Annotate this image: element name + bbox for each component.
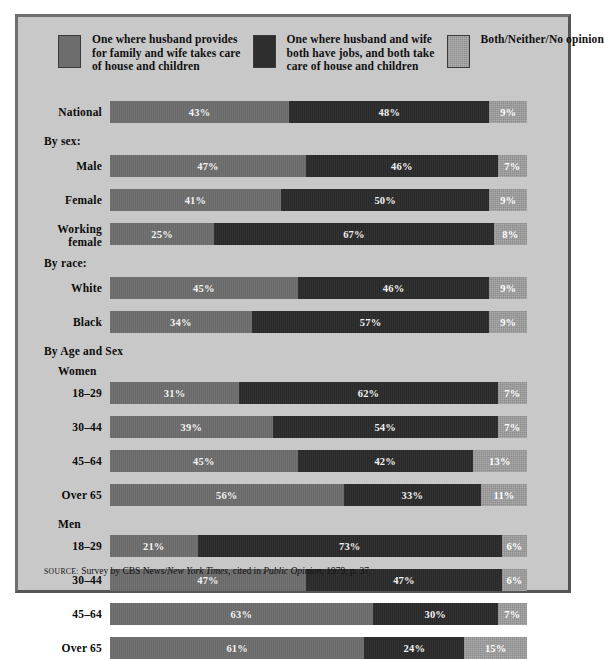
stacked-bar: 56%33%11% <box>110 484 527 506</box>
row-label: Male <box>76 160 102 173</box>
row-label-line: National <box>58 106 102 119</box>
row-label-line: 45–64 <box>72 608 102 621</box>
bar-segment-value: 33% <box>402 490 424 501</box>
row-label-line: Over 65 <box>62 489 102 502</box>
legend-label-line: Both/Neither/No opinion <box>481 33 604 47</box>
stacked-bar: 21%73%6% <box>110 535 527 557</box>
bar-segment: 7% <box>498 382 527 404</box>
bar-segment: 41% <box>110 189 281 211</box>
bar-segment-value: 48% <box>379 107 401 118</box>
legend-label-line: One where husband and wife <box>287 33 435 47</box>
swatch-dark-gray-icon <box>58 35 81 68</box>
bar-segment: 42% <box>298 450 473 472</box>
bar-segment: 48% <box>289 101 489 123</box>
bar-segment: 25% <box>110 223 214 245</box>
legend-item: One where husband and wifeboth have jobs… <box>253 33 435 74</box>
bar-segment-value: 50% <box>374 195 396 206</box>
bar-segment: 39% <box>110 416 273 438</box>
bar-segment: 7% <box>498 416 527 438</box>
stacked-bar: 31%62%7% <box>110 382 527 404</box>
bar-segment-value: 7% <box>504 161 520 172</box>
bar-segment-value: 24% <box>404 643 426 654</box>
group-label: By sex: <box>44 135 81 147</box>
bar-segment: 61% <box>110 637 364 659</box>
row-label-line: female <box>57 236 102 249</box>
source-publication: New York Times <box>167 566 228 576</box>
source-note: Source: Survey by CBS News/New York Time… <box>44 566 371 576</box>
source-publication: Public Opinion <box>263 566 321 576</box>
chart-row: 45–6445%42%13% <box>18 450 568 472</box>
bar-segment-value: 47% <box>393 575 415 586</box>
bar-segment-value: 63% <box>231 609 253 620</box>
bar-segment: 73% <box>198 535 502 557</box>
bar-segment-value: 73% <box>339 541 361 552</box>
row-label-line: Over 65 <box>62 642 102 655</box>
legend-label: One where husband and wifeboth have jobs… <box>287 33 435 74</box>
chart-row: 18–2931%62%7% <box>18 382 568 404</box>
bar-segment: 15% <box>464 637 527 659</box>
subgroup-label: Men <box>58 518 81 530</box>
row-label: White <box>71 282 102 295</box>
bar-segment-value: 61% <box>226 643 248 654</box>
bar-segment: 46% <box>306 155 498 177</box>
bar-segment-value: 7% <box>504 388 520 399</box>
chart-row: Male47%46%7% <box>18 155 568 177</box>
bar-segment-value: 8% <box>502 229 518 240</box>
row-label: Black <box>73 316 102 329</box>
bar-segment-value: 43% <box>189 107 211 118</box>
bar-segment: 50% <box>281 189 490 211</box>
legend-label-line: of house and children <box>92 60 241 74</box>
source-prefix: Source: <box>44 567 79 576</box>
bar-segment-value: 21% <box>143 541 165 552</box>
bar-segment: 7% <box>498 603 527 625</box>
bar-segment-value: 6% <box>506 541 522 552</box>
bar-segment: 63% <box>110 603 373 625</box>
chart-row: 30–4439%54%7% <box>18 416 568 438</box>
row-label: National <box>58 106 102 119</box>
bar-segment-value: 67% <box>343 229 365 240</box>
stacked-bar: 45%46%9% <box>110 277 527 299</box>
row-label-line: 18–29 <box>72 387 102 400</box>
bar-segment-value: 25% <box>151 229 173 240</box>
bar-segment: 34% <box>110 311 252 333</box>
bar-segment-value: 9% <box>500 317 516 328</box>
row-label-line: 45–64 <box>72 455 102 468</box>
row-label-line: White <box>71 282 102 295</box>
bar-segment: 33% <box>344 484 482 506</box>
bar-segment: 8% <box>494 223 527 245</box>
stacked-bar: 41%50%9% <box>110 189 527 211</box>
row-label: Female <box>65 194 102 207</box>
bar-segment-value: 11% <box>494 490 515 501</box>
bar-segment-value: 54% <box>374 422 396 433</box>
bar-segment-value: 41% <box>185 195 207 206</box>
bar-segment-value: 56% <box>216 490 238 501</box>
bar-segment-value: 7% <box>504 609 520 620</box>
row-label-line: Working <box>57 223 102 236</box>
stacked-bar: 63%30%7% <box>110 603 527 625</box>
row-label: 45–64 <box>72 455 102 468</box>
stacked-bar: 61%24%15% <box>110 637 527 659</box>
bar-segment-value: 13% <box>489 456 511 467</box>
legend-label: One where husband providesfor family and… <box>92 33 241 74</box>
bar-segment-value: 57% <box>360 317 382 328</box>
bar-segment: 9% <box>489 189 527 211</box>
legend-label: Both/Neither/No opinion <box>481 33 604 47</box>
bar-segment: 9% <box>489 311 527 333</box>
bar-segment: 31% <box>110 382 239 404</box>
bar-segment: 57% <box>252 311 490 333</box>
row-label: Over 65 <box>62 489 102 502</box>
row-label: 18–29 <box>72 387 102 400</box>
chart-row: Workingfemale25%67%8% <box>18 223 568 245</box>
chart-row: Female41%50%9% <box>18 189 568 211</box>
bar-segment: 7% <box>498 155 527 177</box>
row-label-line: Female <box>65 194 102 207</box>
bar-segment-value: 39% <box>181 422 203 433</box>
bar-segment-value: 9% <box>500 283 516 294</box>
bar-segment-value: 46% <box>391 161 413 172</box>
row-label: 18–29 <box>72 540 102 553</box>
row-label: 30–44 <box>72 421 102 434</box>
bar-segment: 21% <box>110 535 198 557</box>
swatch-light-gray-icon <box>447 35 470 68</box>
bar-segment: 46% <box>298 277 490 299</box>
bar-segment: 62% <box>239 382 498 404</box>
